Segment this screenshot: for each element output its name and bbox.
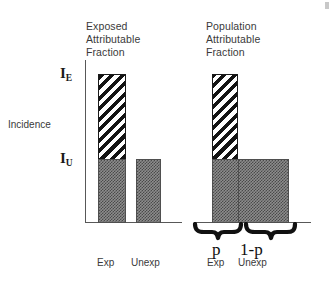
right-population-baseline-block	[212, 159, 289, 223]
y-tick-sub-ie: E	[66, 73, 72, 83]
left-unexp-bar	[136, 159, 161, 223]
panel-title-exposed-attributable-fraction: Exposed Attributable Fraction	[86, 20, 182, 59]
left-exp-bar-baseline-segment	[98, 159, 126, 223]
y-tick-sub-iu: U	[66, 158, 73, 168]
brace-1-minus-p-icon	[246, 224, 295, 238]
y-axis-label: Incidence	[8, 119, 51, 130]
right-category-label-exp: Exp	[207, 257, 224, 268]
figure-canvas: Exposed Attributable Fraction Population…	[0, 0, 333, 287]
right-exp-bar-attributable-segment	[212, 74, 238, 160]
left-exp-bar-attributable-segment	[98, 74, 126, 160]
right-panel-exposure-divider	[238, 159, 239, 222]
left-panel-y-axis	[85, 60, 86, 223]
panel-title-population-attributable-fraction: Population Attributable Fraction	[206, 20, 310, 59]
y-tick-symbol-ie: I	[60, 65, 66, 81]
y-tick-symbol-iu: I	[60, 150, 66, 166]
right-category-label-unexp: Unexp	[238, 257, 267, 268]
y-tick-incidence-unexposed: IU	[60, 150, 73, 167]
left-category-label-exp: Exp	[97, 257, 114, 268]
brace-p-icon	[195, 224, 241, 238]
left-category-label-unexp: Unexp	[131, 257, 160, 268]
scan-artifact	[325, 2, 329, 9]
y-tick-incidence-exposed: IE	[60, 65, 72, 82]
